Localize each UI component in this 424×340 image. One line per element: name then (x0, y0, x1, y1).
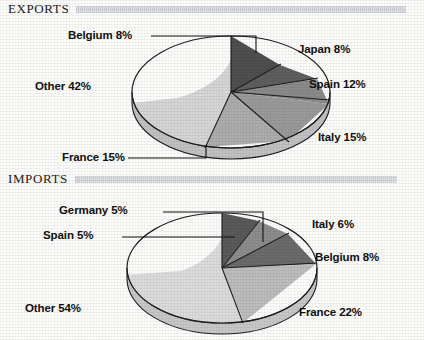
exports-label-italy: Italy 15% (318, 131, 366, 143)
exports-label-japan: Japan 8% (298, 43, 350, 55)
imports-pie-slices (125, 213, 316, 340)
exports-label-spain: Spain 12% (309, 78, 366, 90)
exports-label-other: Other 42% (35, 80, 91, 92)
imports-label-spain: Spain 5% (43, 229, 93, 241)
exports-label-france: France 15% (62, 151, 125, 163)
imports-label-other: Other 54% (25, 302, 81, 314)
exports-label-belgium: Belgium 8% (68, 29, 132, 41)
imports-label-france: France 22% (299, 306, 362, 318)
exports-slice-other (130, 36, 233, 104)
imports-label-belgium: Belgium 8% (315, 251, 379, 263)
imports-section: IMPORTS (0, 170, 424, 340)
imports-label-italy: Italy 6% (312, 218, 354, 230)
exports-section: EXPORTS (0, 0, 424, 170)
imports-label-germany: Germany 5% (59, 204, 128, 216)
